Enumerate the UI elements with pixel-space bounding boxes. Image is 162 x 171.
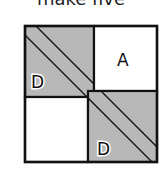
puzzle-figure: D A D: [0, 0, 162, 171]
label-bottom-right: D: [97, 139, 110, 159]
label-top-right: A: [117, 50, 129, 70]
region-bottom-left: [25, 97, 88, 162]
label-top-left: D: [31, 72, 44, 92]
